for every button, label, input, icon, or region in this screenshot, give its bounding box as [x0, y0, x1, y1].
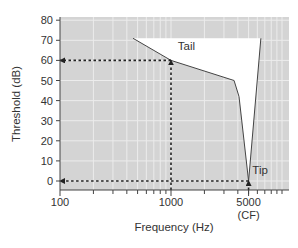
y-tick-label: 70: [41, 34, 53, 46]
y-tick-label: 30: [41, 115, 53, 127]
y-axis-title: Threshold (dB): [10, 66, 22, 142]
y-axis: 01020304050607080: [41, 14, 60, 190]
y-tick-label: 10: [41, 155, 53, 167]
y-tick-label: 80: [41, 14, 53, 26]
x-tick-label: 1000: [159, 196, 183, 208]
y-tick-label: 0: [47, 175, 53, 187]
y-tick-label: 50: [41, 75, 53, 87]
x-tick-label: 5000: [236, 196, 260, 208]
annotation-tip: Tip: [252, 164, 268, 176]
annotation-tail: Tail: [178, 40, 195, 52]
y-tick-label: 60: [41, 54, 53, 66]
x-axis: 10010005000(CF): [51, 190, 289, 221]
y-tick-label: 40: [41, 95, 53, 107]
y-tick-label: 20: [41, 135, 53, 147]
x-tick-label: 100: [51, 196, 69, 208]
x-axis-title: Frequency (Hz): [134, 221, 213, 233]
x-tick-sublabel: (CF): [238, 209, 260, 221]
tuning-curve-chart: 01020304050607080 10010005000(CF) TailTi…: [0, 0, 298, 248]
